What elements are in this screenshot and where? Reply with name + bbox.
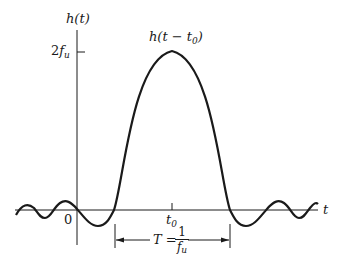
sinc-curve — [16, 51, 318, 226]
arrowhead-right-icon — [221, 238, 229, 243]
x-axis-label: t — [323, 203, 328, 216]
curve-label-close: ) — [198, 29, 203, 44]
t0-label: t0 — [166, 213, 177, 226]
curve-label: h(t − t0) — [149, 30, 203, 43]
sinc-pulse-diagram: h(t) t 2fu 0 t0 h(t − t0) T = 1 fu — [0, 0, 338, 271]
y-tick-sub: u — [64, 50, 70, 60]
curve-label-text: h(t − t — [149, 29, 192, 44]
curve-label-sub: 0 — [192, 36, 198, 46]
period-T: T — [153, 232, 162, 247]
period-fraction: 1 fu — [175, 226, 189, 255]
fraction-denominator: fu — [177, 241, 187, 255]
y-axis-label: h(t) — [66, 12, 90, 25]
fraction-numerator: 1 — [178, 226, 186, 238]
y-tick-label-2fu: 2fu — [51, 44, 70, 57]
period-lhs: T = — [153, 233, 177, 246]
arrowhead-left-icon — [116, 238, 124, 243]
origin-label: 0 — [64, 213, 72, 226]
